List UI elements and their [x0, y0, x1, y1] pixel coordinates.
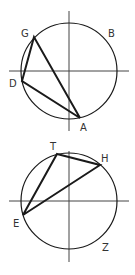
geometry-diagram: G D A B T H E Z	[0, 0, 135, 275]
label-z: Z	[102, 242, 109, 253]
label-b: B	[108, 28, 115, 39]
label-e: E	[13, 218, 19, 229]
triangle-the	[23, 154, 100, 215]
figure-1: G D A B	[9, 11, 129, 133]
label-d: D	[9, 78, 17, 89]
label-g: G	[21, 28, 29, 39]
label-h: H	[101, 153, 109, 164]
figure-2: T H E Z	[9, 141, 129, 262]
label-t: T	[49, 141, 57, 152]
label-a: A	[80, 122, 87, 133]
triangle-gda	[22, 37, 80, 118]
